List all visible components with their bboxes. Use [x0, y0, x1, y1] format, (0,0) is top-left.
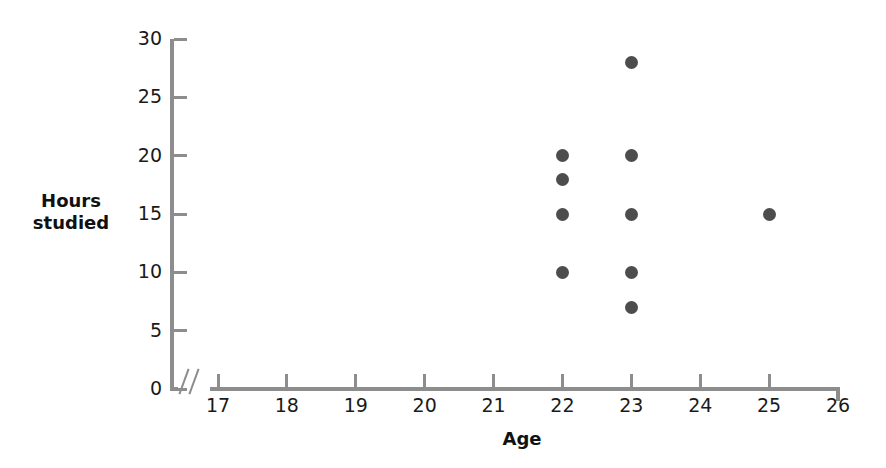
data-point [625, 266, 638, 279]
x-tick-label-19: 19 [326, 396, 386, 415]
x-tick-label-18: 18 [257, 396, 317, 415]
x-axis-line [170, 387, 840, 391]
y-tick-label-5: 5 [126, 321, 162, 340]
data-point [556, 149, 569, 162]
y-tick-5 [174, 329, 187, 332]
y-tick-label-20: 20 [126, 146, 162, 165]
x-tick-label-24: 24 [670, 396, 730, 415]
x-tick-label-25: 25 [739, 396, 799, 415]
data-point [556, 173, 569, 186]
x-tick-18 [285, 374, 288, 388]
data-point [625, 301, 638, 314]
x-tick-label-23: 23 [601, 396, 661, 415]
x-tick-19 [354, 374, 357, 388]
y-tick-30 [174, 38, 187, 41]
x-tick-label-17: 17 [188, 396, 248, 415]
y-tick-label-25: 25 [126, 87, 162, 106]
x-tick-20 [423, 374, 426, 388]
y-axis-title-line-1: Hours [16, 190, 126, 212]
x-tick-23 [630, 374, 633, 388]
data-point [625, 56, 638, 69]
x-tick-label-20: 20 [395, 396, 455, 415]
data-point [625, 149, 638, 162]
y-tick-label-0: 0 [126, 379, 162, 398]
data-point [556, 266, 569, 279]
x-tick-label-26: 26 [808, 396, 868, 415]
scatter-plot: Hours studied Age 051015202530 171819202… [0, 0, 886, 468]
y-axis-title: Hours studied [16, 190, 126, 234]
y-axis-title-line-2: studied [16, 212, 126, 234]
y-tick-label-10: 10 [126, 262, 162, 281]
data-point [625, 208, 638, 221]
y-tick-label-30: 30 [126, 29, 162, 48]
x-axis-title: Age [462, 428, 582, 449]
x-tick-label-21: 21 [464, 396, 524, 415]
y-tick-label-15: 15 [126, 204, 162, 223]
x-tick-22 [561, 374, 564, 388]
y-tick-25 [174, 96, 187, 99]
x-tick-24 [699, 374, 702, 388]
x-tick-label-22: 22 [532, 396, 592, 415]
x-tick-17 [217, 374, 220, 388]
axis-break-icon [178, 368, 210, 396]
x-tick-21 [492, 374, 495, 388]
y-tick-10 [174, 271, 187, 274]
x-tick-25 [768, 374, 771, 388]
data-point [556, 208, 569, 221]
y-tick-15 [174, 213, 187, 216]
y-tick-0 [174, 388, 187, 391]
data-point [763, 208, 776, 221]
y-tick-20 [174, 154, 187, 157]
